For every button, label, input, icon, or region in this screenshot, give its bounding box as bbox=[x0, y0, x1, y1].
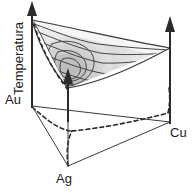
ternary-phase-diagram-figure: Temperatura Au Ag Cu bbox=[0, 0, 193, 194]
base-edge-au-cu bbox=[32, 106, 170, 122]
corner-label-cu: Cu bbox=[170, 126, 187, 139]
base-eutectic-projection bbox=[32, 88, 170, 166]
base-edge-au-ag bbox=[32, 106, 68, 166]
valley-au-branch bbox=[32, 107, 70, 131]
diagram-canvas bbox=[0, 0, 193, 194]
corner-label-au: Au bbox=[5, 93, 21, 106]
base-composition-triangle bbox=[32, 106, 170, 166]
surface-valley-core bbox=[44, 54, 88, 90]
cu-temperature-arrow bbox=[165, 16, 175, 124]
y-axis-label: Temperatura bbox=[12, 13, 25, 105]
au-temperature-arrow bbox=[27, 1, 37, 108]
base-edge-ag-cu bbox=[68, 122, 170, 166]
corner-label-ag: Ag bbox=[56, 172, 72, 185]
